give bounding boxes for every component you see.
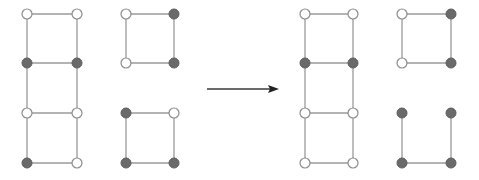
filled-node [348, 58, 358, 68]
transformation-arrow [207, 85, 279, 93]
hollow-node [121, 58, 131, 68]
filled-node [446, 158, 456, 168]
hollow-node [348, 9, 358, 19]
after-square-bottom [397, 108, 456, 168]
hollow-node [72, 108, 82, 118]
hollow-node [397, 9, 407, 19]
filled-node [22, 58, 32, 68]
hollow-node [397, 58, 407, 68]
filled-node [446, 108, 456, 118]
hollow-node [22, 9, 32, 19]
filled-node [446, 58, 456, 68]
filled-node [397, 158, 407, 168]
filled-node [300, 58, 310, 68]
filled-node [72, 58, 82, 68]
hollow-node [121, 9, 131, 19]
filled-node [446, 9, 456, 19]
hollow-node [348, 158, 358, 168]
diagram-canvas [0, 0, 479, 180]
filled-node [22, 158, 32, 168]
filled-node [121, 158, 131, 168]
hollow-node [300, 108, 310, 118]
after-ladder [300, 9, 358, 168]
hollow-node [22, 108, 32, 118]
hollow-node [72, 9, 82, 19]
hollow-node [169, 108, 179, 118]
before-square-bottom [121, 108, 179, 168]
hollow-node [300, 158, 310, 168]
hollow-node [72, 158, 82, 168]
filled-node [169, 158, 179, 168]
after-square-top [397, 9, 456, 68]
hollow-node [348, 108, 358, 118]
filled-node [169, 58, 179, 68]
hollow-node [300, 9, 310, 19]
filled-node [121, 108, 131, 118]
before-ladder [22, 9, 82, 168]
filled-node [169, 9, 179, 19]
before-square-top [121, 9, 179, 68]
filled-node [397, 108, 407, 118]
